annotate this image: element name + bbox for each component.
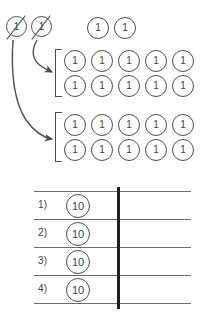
row-2-token-value: 10 <box>72 229 84 240</box>
table-line-bottom <box>34 303 191 304</box>
table-line-3 <box>34 275 191 276</box>
row-4-token-value: 10 <box>72 285 84 296</box>
table-divider <box>117 187 120 309</box>
row-1-token: 10 <box>66 194 90 218</box>
row-1-number: 1) <box>38 199 47 210</box>
row-4-token: 10 <box>66 278 90 302</box>
row-2-number: 2) <box>38 227 47 238</box>
table-line-1 <box>34 219 191 220</box>
row-3-number: 3) <box>38 255 47 266</box>
row-1-token-value: 10 <box>72 201 84 212</box>
worksheet-canvas: 1 1 1 1 1 1 1 1 1 1 1 <box>0 0 201 324</box>
row-3-token-value: 10 <box>72 257 84 268</box>
table-line-top <box>34 191 191 192</box>
row-3-token: 10 <box>66 250 90 274</box>
answer-table: 1) 10 2) 10 3) 10 4) 10 <box>0 0 201 324</box>
table-line-2 <box>34 247 191 248</box>
row-2-token: 10 <box>66 222 90 246</box>
row-4-number: 4) <box>38 283 47 294</box>
